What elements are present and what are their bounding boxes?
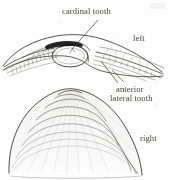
shell-ventral-margin bbox=[10, 176, 141, 178]
label-right-valve: right bbox=[140, 134, 157, 144]
label-left-valve: left bbox=[133, 34, 145, 44]
anterior-lateral-leader-lower bbox=[112, 70, 124, 82]
left-lateral-blade bbox=[4, 43, 63, 76]
scan-artifact bbox=[150, 3, 166, 9]
cardinal-tooth-leader-tip bbox=[70, 49, 75, 53]
bivalve-anatomy-figure bbox=[0, 0, 177, 180]
label-cardinal-tooth: cardinal tooth bbox=[62, 7, 111, 17]
label-lateral-tooth: lateral tooth bbox=[110, 94, 153, 104]
